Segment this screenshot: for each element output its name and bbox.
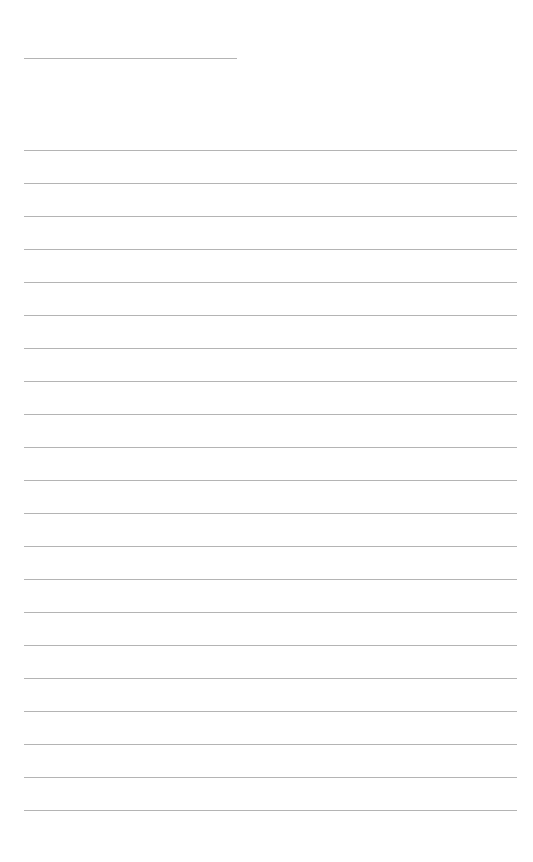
ruled-line	[24, 282, 517, 283]
ruled-line	[24, 546, 517, 547]
ruled-line	[24, 810, 517, 811]
ruled-line	[24, 645, 517, 646]
ruled-line	[24, 744, 517, 745]
ruled-line	[24, 711, 517, 712]
ruled-line	[24, 348, 517, 349]
ruled-line	[24, 612, 517, 613]
ruled-line	[24, 381, 517, 382]
ruled-line	[24, 579, 517, 580]
ruled-line	[24, 447, 517, 448]
ruled-line	[24, 150, 517, 151]
ruled-line	[24, 183, 517, 184]
header-line	[24, 58, 237, 59]
ruled-line	[24, 216, 517, 217]
ruled-line	[24, 414, 517, 415]
ruled-line	[24, 249, 517, 250]
lined-paper-page	[0, 0, 533, 862]
ruled-line	[24, 513, 517, 514]
ruled-line	[24, 315, 517, 316]
ruled-line	[24, 777, 517, 778]
ruled-line	[24, 480, 517, 481]
ruled-line	[24, 678, 517, 679]
